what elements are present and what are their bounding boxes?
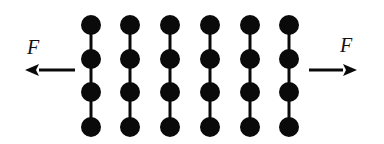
particle — [120, 117, 140, 137]
particle — [200, 15, 220, 35]
particle — [279, 49, 299, 69]
particle — [240, 117, 260, 137]
particle — [160, 49, 180, 69]
right-force-label: F — [340, 34, 352, 57]
particle — [160, 117, 180, 137]
particle — [240, 49, 260, 69]
particle — [200, 82, 220, 102]
particle — [120, 49, 140, 69]
particle — [200, 117, 220, 137]
particle — [81, 15, 101, 35]
particle — [160, 82, 180, 102]
particle — [279, 117, 299, 137]
particle — [160, 15, 180, 35]
particle — [240, 82, 260, 102]
particle-chain-diagram — [0, 0, 384, 144]
diagram: F F — [0, 0, 384, 144]
particle — [120, 82, 140, 102]
particle — [279, 15, 299, 35]
particle — [81, 49, 101, 69]
particle — [120, 15, 140, 35]
left-force-label: F — [27, 36, 39, 59]
left-arrow-icon — [25, 64, 39, 76]
particle — [240, 15, 260, 35]
particle — [81, 82, 101, 102]
particle — [200, 49, 220, 69]
particle — [279, 82, 299, 102]
particle — [81, 117, 101, 137]
right-arrow-icon — [343, 64, 357, 76]
